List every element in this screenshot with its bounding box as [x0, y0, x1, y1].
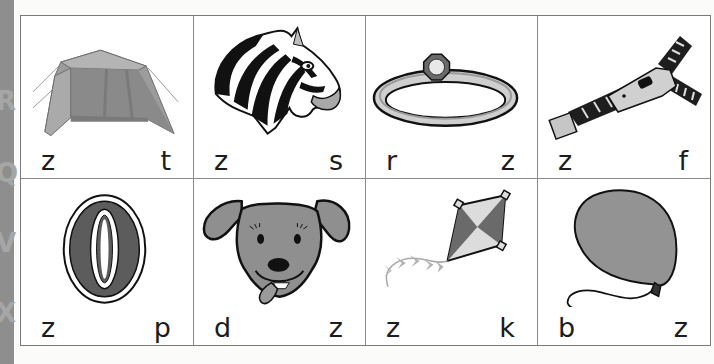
card-ring: r z	[366, 16, 538, 179]
dog-icon	[194, 179, 365, 307]
left-letter: b	[558, 314, 575, 341]
tent-icon	[21, 16, 193, 144]
picture-letter-grid: z t z s	[20, 15, 711, 346]
left-letter: z	[386, 314, 400, 341]
right-letter: p	[154, 314, 171, 341]
right-letter: z	[501, 147, 515, 174]
zebra-icon	[194, 16, 365, 144]
card-zero: z p	[21, 179, 194, 345]
ring-icon	[366, 16, 537, 144]
right-letter: f	[678, 147, 688, 174]
strip-letter: R	[0, 88, 16, 114]
left-letter: z	[558, 147, 572, 174]
zero-icon	[21, 179, 193, 307]
strip-letter: X	[0, 300, 16, 326]
right-letter: z	[329, 314, 343, 341]
left-letter: z	[41, 314, 55, 341]
card-balloon: b z	[538, 179, 710, 345]
card-kite: z k	[366, 179, 538, 345]
zipper-icon	[538, 16, 710, 144]
decorative-side-strip: R Q V X	[0, 0, 14, 364]
right-letter: t	[160, 147, 171, 174]
balloon-icon	[538, 179, 710, 307]
right-letter: s	[329, 147, 343, 174]
card-dog: d z	[194, 179, 366, 345]
right-letter: k	[499, 314, 515, 341]
left-letter: z	[214, 147, 228, 174]
card-tent: z t	[21, 16, 194, 179]
left-letter: z	[41, 147, 55, 174]
strip-letter: Q	[0, 160, 18, 186]
card-zipper: z f	[538, 16, 710, 179]
right-letter: z	[674, 314, 688, 341]
left-letter: r	[386, 147, 397, 174]
card-zebra: z s	[194, 16, 366, 179]
strip-letter: V	[0, 230, 16, 256]
left-letter: d	[214, 314, 231, 341]
kite-icon	[366, 179, 537, 307]
